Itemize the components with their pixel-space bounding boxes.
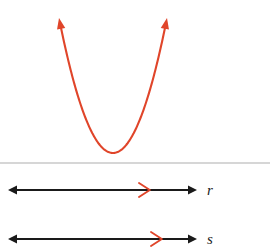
number-line-s-label: s bbox=[207, 231, 213, 247]
number-line-s: s bbox=[8, 231, 213, 247]
parabola-group bbox=[57, 18, 169, 153]
number-line-r-left-arrowhead bbox=[8, 185, 17, 194]
number-line-r-right-arrowhead bbox=[188, 185, 197, 194]
parabola-curve bbox=[61, 28, 165, 153]
parabola-left-arrowhead bbox=[57, 18, 65, 30]
number-line-s-left-arrowhead bbox=[8, 234, 17, 243]
diagram-canvas: r s bbox=[0, 0, 270, 248]
number-line-r: r bbox=[8, 182, 213, 198]
parabola-right-arrowhead bbox=[161, 18, 169, 30]
figure-svg: r s bbox=[0, 0, 270, 248]
number-line-r-label: r bbox=[207, 182, 213, 198]
number-line-s-right-arrowhead bbox=[188, 234, 197, 243]
